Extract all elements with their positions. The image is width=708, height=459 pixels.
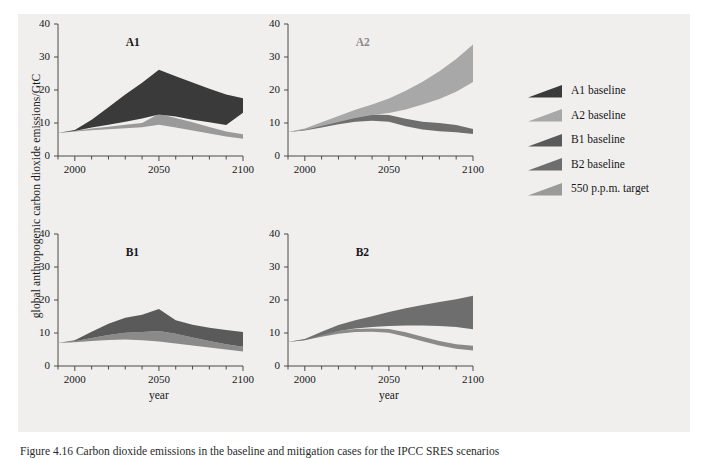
y-tick-label: 30: [258, 50, 280, 62]
y-tick-label: 40: [28, 17, 50, 29]
y-tick-label: 20: [28, 83, 50, 95]
y-tick-label: 20: [28, 293, 50, 305]
legend: A1 baselineA2 baselineB1 baselineB2 base…: [528, 78, 698, 201]
panel-title-b2: B2: [356, 246, 369, 258]
legend-item: B2 baseline: [528, 152, 698, 177]
x-tick-label: 2050: [139, 373, 179, 385]
x-tick-label: 2100: [453, 163, 493, 175]
legend-swatch-icon: [528, 84, 562, 97]
x-tick-label: 2050: [139, 163, 179, 175]
y-tick-label: 40: [258, 227, 280, 239]
y-tick-label: 0: [28, 359, 50, 371]
plot-area-b1: [58, 228, 266, 391]
y-tick-label: 30: [28, 50, 50, 62]
x-tick-label: 2100: [453, 373, 493, 385]
legend-item: A2 baseline: [528, 103, 698, 128]
panel-title-a1: A1: [126, 36, 140, 48]
y-tick-label: 40: [28, 227, 50, 239]
y-tick-label: 10: [28, 326, 50, 338]
legend-label: A2 baseline: [571, 109, 626, 121]
legend-swatch-icon: [528, 108, 562, 121]
chart-panel-b1: B1010203040200020502100year: [58, 228, 266, 391]
y-tick-label: 10: [28, 116, 50, 128]
legend-swatch-icon: [528, 157, 562, 170]
x-tick-label: 2000: [55, 373, 95, 385]
x-tick-label: 2050: [369, 373, 409, 385]
panel-title-a2: A2: [356, 36, 370, 48]
legend-item: 550 p.p.m. target: [528, 176, 698, 201]
legend-swatch-icon: [528, 133, 562, 146]
legend-item: A1 baseline: [528, 78, 698, 103]
x-axis-title: year: [359, 389, 419, 401]
series-band-550-p-p-m-target: [288, 114, 473, 133]
x-tick-label: 2000: [285, 373, 325, 385]
x-axis-title: year: [129, 389, 189, 401]
legend-label: B2 baseline: [571, 158, 625, 170]
x-tick-label: 2000: [285, 163, 325, 175]
y-tick-label: 0: [258, 149, 280, 161]
legend-item: B1 baseline: [528, 127, 698, 152]
x-tick-label: 2050: [369, 163, 409, 175]
legend-label: A1 baseline: [571, 84, 626, 96]
y-tick-label: 30: [28, 260, 50, 272]
legend-label: B1 baseline: [571, 133, 625, 145]
series-band-550-p-p-m-target: [288, 328, 473, 350]
x-tick-label: 2100: [223, 163, 263, 175]
y-tick-label: 30: [258, 260, 280, 272]
y-tick-label: 20: [258, 293, 280, 305]
x-tick-label: 2000: [55, 163, 95, 175]
x-tick-label: 2100: [223, 373, 263, 385]
y-tick-label: 10: [258, 326, 280, 338]
y-tick-label: 0: [28, 149, 50, 161]
y-tick-label: 20: [258, 83, 280, 95]
plot-area-a1: [58, 18, 266, 181]
plot-area-b2: [288, 228, 496, 391]
legend-swatch-icon: [528, 182, 562, 195]
y-tick-label: 10: [258, 116, 280, 128]
series-band-b2-baseline: [288, 296, 473, 342]
chart-panel-b2: B2010203040200020502100year: [288, 228, 496, 391]
chart-panel-a1: A1010203040200020502100: [58, 18, 266, 181]
plot-area-a2: [288, 18, 496, 181]
panel-title-b1: B1: [126, 246, 139, 258]
chart-panel-a2: A2010203040200020502100: [288, 18, 496, 181]
figure-caption: Figure 4.16 Carbon dioxide emissions in …: [20, 444, 690, 459]
y-tick-label: 40: [258, 17, 280, 29]
legend-label: 550 p.p.m. target: [571, 182, 649, 194]
y-tick-label: 0: [258, 359, 280, 371]
